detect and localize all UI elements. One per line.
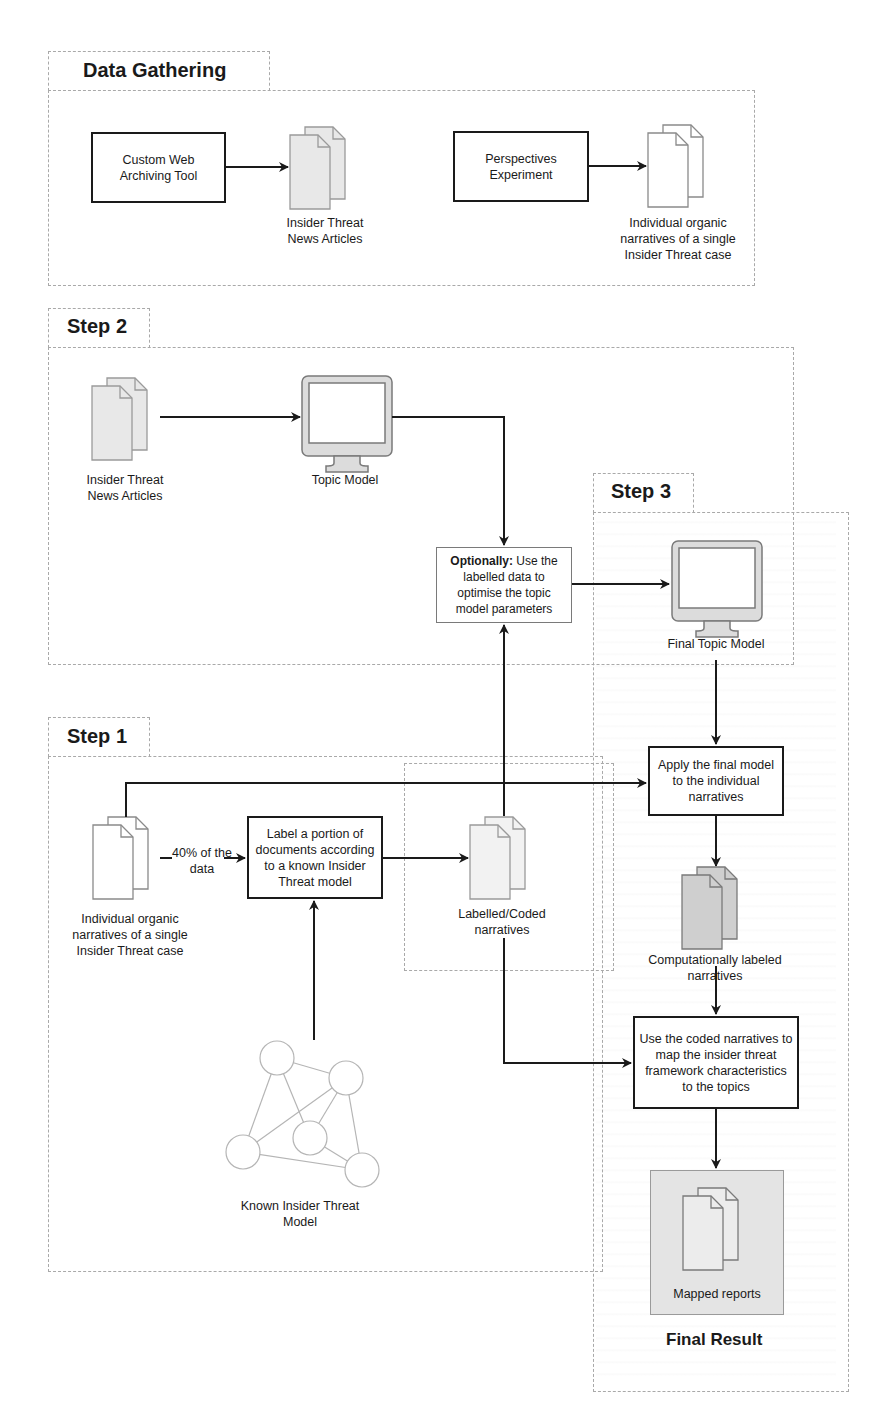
s2-news-articles-docs-icon xyxy=(92,378,147,460)
narrative-docs-icon xyxy=(648,125,703,207)
diagram-connectors xyxy=(0,0,893,1417)
known-model-network-icon xyxy=(226,1041,379,1187)
coded-narratives-docs-icon xyxy=(470,817,525,899)
s1-narrative-docs-icon xyxy=(93,817,148,899)
topic-model-monitor-icon xyxy=(302,376,392,472)
news-articles-docs-icon xyxy=(290,127,345,209)
final-topic-model-monitor-icon xyxy=(672,541,762,637)
mapped-reports-docs-icon xyxy=(683,1188,738,1270)
computational-labels-docs-icon xyxy=(682,867,737,949)
